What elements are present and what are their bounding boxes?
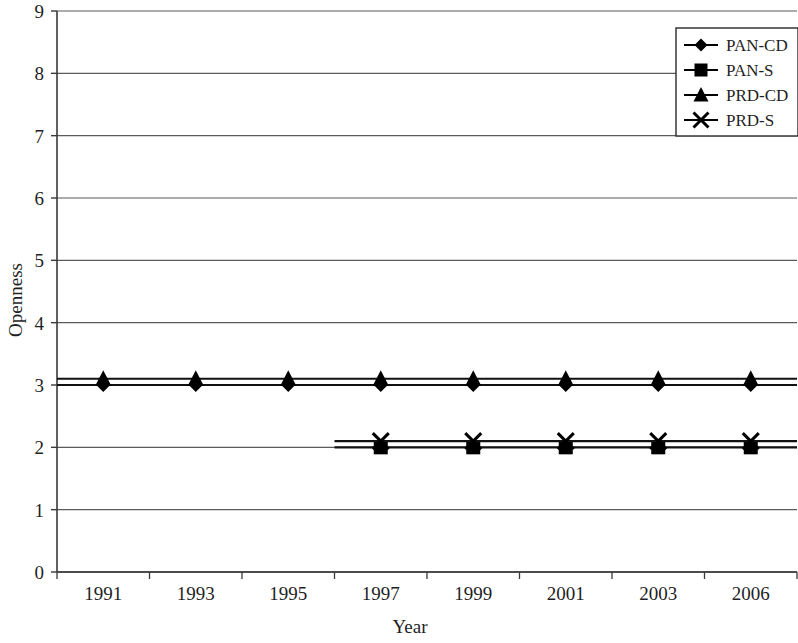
x-axis-title: Year	[392, 616, 428, 637]
y-tick-label: 8	[35, 63, 45, 84]
x-tick-label: 2006	[732, 583, 770, 604]
legend-marker-square-icon	[695, 64, 708, 77]
y-tick-label: 6	[35, 188, 45, 209]
y-axis-title: Openness	[5, 263, 26, 337]
chart-figure: 0123456789 19911993199519971999200120032…	[0, 0, 798, 643]
x-tick-label: 1993	[177, 583, 215, 604]
x-tick-label: 2003	[639, 583, 677, 604]
y-tick-label: 0	[35, 562, 45, 583]
x-tick-label: 1991	[84, 583, 122, 604]
y-tick-label: 2	[35, 437, 45, 458]
y-tick-label: 7	[35, 126, 45, 147]
x-tick-label: 1995	[269, 583, 307, 604]
x-tick-label: 2001	[547, 583, 585, 604]
legend-label: PAN-S	[726, 61, 774, 80]
legend-label: PRD-S	[726, 111, 774, 130]
legend-label: PAN-CD	[726, 36, 788, 55]
openness-by-year-line-chart: 0123456789 19911993199519971999200120032…	[0, 0, 798, 643]
chart-legend: PAN-CDPAN-SPRD-CDPRD-S	[676, 28, 798, 136]
y-tick-label: 3	[35, 375, 45, 396]
y-tick-label: 9	[35, 1, 45, 22]
y-tick-label: 1	[35, 500, 45, 521]
legend-label: PRD-CD	[726, 86, 788, 105]
y-tick-label: 5	[35, 250, 45, 271]
y-tick-label: 4	[35, 313, 45, 334]
x-tick-label: 1997	[362, 583, 400, 604]
x-tick-label: 1999	[454, 583, 492, 604]
